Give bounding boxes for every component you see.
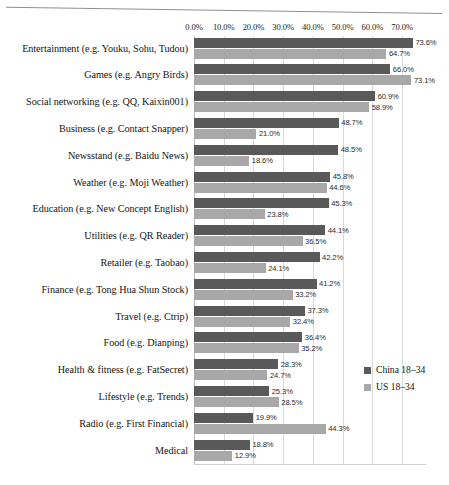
category-label: Radio (e.g. First Financial) — [0, 417, 188, 430]
bar-value-label: 44.3% — [328, 424, 349, 434]
category-label: Education (e.g. New Concept English) — [0, 202, 188, 215]
bar-china — [194, 198, 329, 208]
bar-us — [194, 236, 303, 246]
bar-china — [194, 225, 325, 235]
bar-us — [194, 317, 290, 327]
bar-us — [194, 209, 265, 219]
bar-us — [194, 75, 411, 85]
category-label: Social networking (e.g. QQ, Kaixin001) — [0, 95, 188, 108]
bar-us — [194, 370, 267, 380]
bar-value-label: 33.2% — [295, 290, 316, 300]
bar-us — [194, 49, 386, 59]
bar-value-label: 60.9% — [378, 92, 399, 102]
bar-row: 45.8%44.6% — [194, 170, 426, 197]
bar-china — [194, 386, 269, 396]
bar-row: 42.2%24.1% — [194, 251, 426, 278]
bar-value-label: 48.7% — [341, 118, 362, 128]
bar-china — [194, 413, 253, 423]
bar-value-label: 28.5% — [281, 398, 302, 408]
bar-value-label: 64.7% — [389, 49, 410, 59]
bar-china — [194, 91, 375, 101]
bar-value-label: 41.2% — [319, 279, 340, 289]
chart-legend: China 18–34US 18–34 — [364, 363, 448, 397]
x-axis-tick-label: 60.0% — [362, 22, 384, 33]
x-axis-baseline — [194, 464, 426, 465]
bar-us — [194, 102, 369, 112]
bar-value-label: 42.2% — [322, 253, 343, 263]
category-label: Travel (e.g. Ctrip) — [0, 310, 188, 323]
bar-china — [194, 118, 339, 128]
bar-row: 44.1%36.5% — [194, 224, 426, 251]
bar-value-label: 18.6% — [252, 156, 273, 166]
bar-value-label: 36.4% — [305, 333, 326, 343]
x-axis-tick-labels: 0.0%10.0%20.0%30.0%40.0%50.0%60.0%70.0% — [194, 22, 426, 35]
bar-china — [194, 145, 338, 155]
x-axis-tick-label: 0.0% — [185, 22, 203, 33]
category-label: Business (e.g. Contact Snapper) — [0, 122, 188, 135]
bar-us — [194, 263, 266, 273]
bar-value-label: 12.9% — [235, 451, 256, 461]
bar-chart: 0.0%10.0%20.0%30.0%40.0%50.0%60.0%70.0% … — [0, 0, 449, 485]
x-axis-tick-label: 70.0% — [391, 22, 413, 33]
category-label: Food (e.g. Dianping) — [0, 336, 188, 349]
category-label: Lifestyle (e.g. Trends) — [0, 390, 188, 403]
bar-value-label: 28.3% — [281, 360, 302, 370]
category-label: Medical — [0, 444, 188, 457]
bar-value-label: 35.2% — [301, 344, 322, 354]
bar-us — [194, 343, 299, 353]
category-label: Finance (e.g. Tong Hua Shun Stock) — [0, 283, 188, 296]
bar-value-label: 44.6% — [329, 183, 350, 193]
bar-value-label: 23.8% — [267, 210, 288, 220]
bar-us — [194, 156, 249, 166]
bar-china — [194, 306, 305, 316]
bar-value-label: 36.5% — [305, 237, 326, 247]
bar-row: 18.8%12.9% — [194, 438, 426, 465]
category-label: Newsstand (e.g. Baidu News) — [0, 149, 188, 162]
bar-value-label: 24.7% — [270, 371, 291, 381]
bar-value-label: 45.8% — [333, 172, 354, 182]
category-label: Weather (e.g. Moji Weather) — [0, 176, 188, 189]
bar-china — [194, 252, 320, 262]
bar-us — [194, 397, 279, 407]
bar-us — [194, 451, 232, 461]
bar-value-label: 58.9% — [372, 103, 393, 113]
bar-value-label: 48.5% — [341, 145, 362, 155]
bar-us — [194, 129, 256, 139]
bar-us — [194, 424, 326, 434]
bar-row: 60.9%58.9% — [194, 90, 426, 117]
bar-china — [194, 440, 250, 450]
bar-row: 73.6%64.7% — [194, 36, 426, 63]
bar-us — [194, 290, 293, 300]
bar-row: 45.3%23.8% — [194, 197, 426, 224]
category-label: Entertainment (e.g. Youku, Sohu, Tudou) — [0, 42, 188, 55]
bar-value-label: 66.0% — [393, 65, 414, 75]
bar-value-label: 73.1% — [414, 76, 435, 86]
bar-row: 36.4%35.2% — [194, 331, 426, 358]
bar-china — [194, 172, 330, 182]
legend-item[interactable]: China 18–34 — [364, 363, 448, 377]
bar-value-label: 45.3% — [331, 199, 352, 209]
scan-artifact-line — [6, 6, 442, 16]
legend-item[interactable]: US 18–34 — [364, 380, 448, 394]
bar-value-label: 21.0% — [259, 129, 280, 139]
bar-row: 66.0%73.1% — [194, 63, 426, 90]
bar-value-label: 18.8% — [252, 440, 273, 450]
x-axis-tick-label: 40.0% — [302, 22, 324, 33]
x-axis-tick-label: 30.0% — [272, 22, 294, 33]
bar-value-label: 44.1% — [328, 226, 349, 236]
legend-label: US 18–34 — [376, 381, 415, 393]
x-axis-tick-label: 20.0% — [243, 22, 265, 33]
bar-row: 41.2%33.2% — [194, 277, 426, 304]
bar-china — [194, 332, 302, 342]
bar-row: 37.3%32.4% — [194, 304, 426, 331]
bar-value-label: 32.4% — [293, 317, 314, 327]
category-label: Utilities (e.g. QR Reader) — [0, 229, 188, 242]
bar-china — [194, 279, 317, 289]
bar-us — [194, 183, 327, 193]
bar-row: 19.9%44.3% — [194, 411, 426, 438]
x-axis-tick-label: 10.0% — [213, 22, 235, 33]
legend-swatch-icon — [364, 367, 371, 374]
x-axis-tick-label: 50.0% — [332, 22, 354, 33]
y-axis-category-labels: Entertainment (e.g. Youku, Sohu, Tudou)G… — [0, 36, 188, 465]
bar-china — [194, 64, 390, 74]
